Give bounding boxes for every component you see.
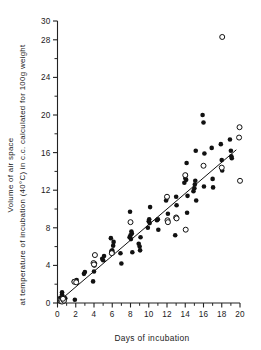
data-point-filled xyxy=(128,210,133,215)
data-point-filled xyxy=(119,261,124,266)
y-axis-title-line2: at temperature of incubation (40°C) in c… xyxy=(18,44,27,306)
data-point-filled xyxy=(229,156,234,161)
data-point-filled xyxy=(147,221,152,226)
data-point-filled xyxy=(184,178,189,183)
data-point-filled xyxy=(109,236,114,241)
x-tick-label: 18 xyxy=(217,310,227,319)
axes-group xyxy=(58,21,241,303)
data-point-filled xyxy=(219,142,224,147)
data-point-filled xyxy=(185,194,190,199)
y-axis-title-line1: Volume of air space xyxy=(6,137,15,212)
data-point-filled xyxy=(73,297,78,302)
x-tick-label: 12 xyxy=(162,310,172,319)
x-tick-label: 20 xyxy=(235,310,245,319)
data-point-filled xyxy=(173,233,178,238)
data-point-filled xyxy=(138,235,143,240)
data-point-filled xyxy=(193,179,198,184)
data-point-open xyxy=(201,163,206,168)
fit-line-segment xyxy=(60,150,236,300)
x-tick-label: 0 xyxy=(55,310,60,319)
data-point-filled xyxy=(148,205,153,210)
data-point-filled xyxy=(193,148,198,153)
x-tick-label: 4 xyxy=(92,310,97,319)
data-point-open xyxy=(128,220,133,225)
data-point-open xyxy=(165,194,170,199)
data-point-open xyxy=(219,165,224,170)
data-point-open xyxy=(237,125,242,130)
data-point-filled xyxy=(202,184,207,189)
data-point-filled xyxy=(174,194,179,199)
y-tick-label: 12 xyxy=(41,186,51,195)
data-point-filled xyxy=(111,240,116,245)
data-point-open xyxy=(237,135,242,140)
x-tick-label: 2 xyxy=(73,310,78,319)
data-point-open xyxy=(74,280,79,285)
figure-container: 04812162024283002468101214161820 Days of… xyxy=(0,0,261,350)
y-tick-label: 30 xyxy=(41,17,51,26)
x-tick-label: 8 xyxy=(128,310,133,319)
data-point-filled xyxy=(129,237,134,242)
y-tick-label: 24 xyxy=(41,73,51,82)
data-point-filled xyxy=(156,217,161,222)
y-tick-label: 28 xyxy=(41,36,51,45)
y-tick-label: 8 xyxy=(46,224,51,233)
data-point-open xyxy=(238,178,243,183)
data-point-filled xyxy=(91,279,96,284)
data-point-filled xyxy=(92,269,97,274)
data-point-open xyxy=(165,220,170,225)
data-points-group xyxy=(58,34,243,304)
ticks-group xyxy=(53,21,240,308)
data-point-open xyxy=(60,296,65,301)
data-point-open xyxy=(183,173,188,178)
y-tick-label: 16 xyxy=(41,149,51,158)
x-tick-label: 6 xyxy=(110,310,115,319)
data-point-filled xyxy=(201,120,206,125)
y-tick-label: 4 xyxy=(46,261,51,270)
data-point-open xyxy=(183,227,188,232)
data-point-filled xyxy=(156,227,161,232)
data-point-filled xyxy=(211,185,216,190)
data-point-open xyxy=(109,251,114,256)
x-tick-label: 10 xyxy=(144,310,154,319)
regression-line xyxy=(60,150,236,300)
x-tick-label: 14 xyxy=(180,310,190,319)
data-point-filled xyxy=(184,161,189,166)
data-point-filled xyxy=(185,210,190,215)
y-tick-label: 20 xyxy=(41,111,51,120)
data-point-open xyxy=(92,262,97,267)
data-point-filled xyxy=(174,203,179,208)
data-point-filled xyxy=(130,250,135,255)
data-point-open xyxy=(220,34,225,39)
data-point-filled xyxy=(83,270,88,275)
data-point-filled xyxy=(219,158,224,163)
y-tick-label: 0 xyxy=(46,299,51,308)
data-point-filled xyxy=(118,251,123,256)
data-point-filled xyxy=(166,211,171,216)
data-point-filled xyxy=(130,231,135,236)
data-point-open xyxy=(92,253,97,258)
data-point-filled xyxy=(102,254,107,259)
data-point-filled xyxy=(60,290,65,295)
data-point-filled xyxy=(194,198,199,203)
data-point-filled xyxy=(146,226,151,231)
x-axis-title: Days of incubation xyxy=(114,333,189,343)
data-point-filled xyxy=(138,248,143,253)
data-point-open xyxy=(174,216,179,221)
data-point-filled xyxy=(229,148,234,153)
scatter-plot: 04812162024283002468101214161820 Days of… xyxy=(0,0,261,350)
data-point-filled xyxy=(101,258,106,263)
data-point-filled xyxy=(210,177,215,182)
data-point-filled xyxy=(228,137,233,142)
data-point-filled xyxy=(209,146,214,151)
x-tick-label: 16 xyxy=(199,310,209,319)
data-point-filled xyxy=(202,151,207,156)
data-point-filled xyxy=(200,113,205,118)
